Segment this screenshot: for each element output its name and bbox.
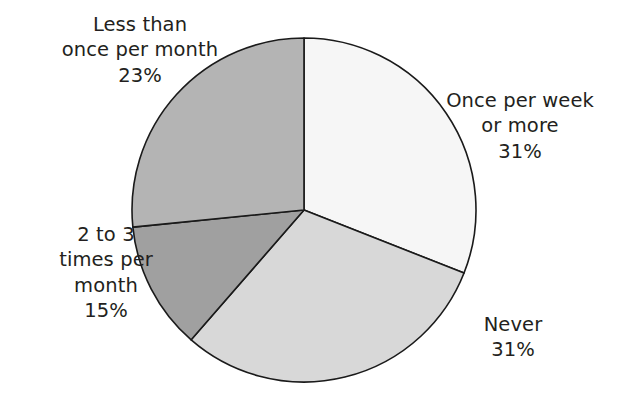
pie-label-two-to-three-times-line2: times per <box>26 247 186 272</box>
pie-label-less-than-once: Less than once per month 23% <box>24 12 256 88</box>
pie-label-once-per-week-percent: 31% <box>430 139 610 164</box>
pie-label-less-than-once-percent: 23% <box>24 63 256 88</box>
pie-label-two-to-three-times-line1: 2 to 3 <box>26 222 186 247</box>
pie-label-two-to-three-times-percent: 15% <box>26 298 186 323</box>
pie-label-two-to-three-times-line3: month <box>26 273 186 298</box>
pie-label-never-line1: Never <box>438 312 588 337</box>
pie-label-less-than-once-line2: once per month <box>24 37 256 62</box>
pie-chart: Less than once per month 23% Once per we… <box>0 0 622 414</box>
pie-label-once-per-week: Once per week or more 31% <box>430 88 610 164</box>
pie-label-less-than-once-line1: Less than <box>24 12 256 37</box>
pie-label-two-to-three-times: 2 to 3 times per month 15% <box>26 222 186 323</box>
pie-label-once-per-week-line1: Once per week <box>430 88 610 113</box>
pie-label-never: Never 31% <box>438 312 588 363</box>
pie-label-once-per-week-line2: or more <box>430 113 610 138</box>
pie-label-never-percent: 31% <box>438 337 588 362</box>
